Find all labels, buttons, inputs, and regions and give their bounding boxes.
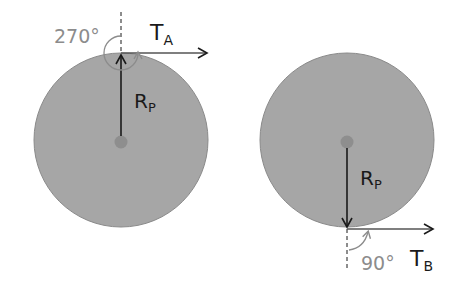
- pulley-tension-diagram: 270° TA RP 90° TB RP: [0, 0, 465, 289]
- right-angle-arc-icon: [349, 232, 368, 250]
- right-pulley-group: 90° TB RP: [260, 53, 434, 274]
- left-pulley-group: 270° TA RP: [34, 12, 208, 227]
- left-angle-label: 270°: [54, 25, 100, 47]
- right-tension-label: TB: [409, 246, 433, 274]
- left-pulley-center-dot: [115, 136, 128, 149]
- left-tension-label: TA: [149, 20, 173, 48]
- right-pulley-center-dot: [341, 136, 354, 149]
- right-angle-label: 90°: [361, 252, 395, 274]
